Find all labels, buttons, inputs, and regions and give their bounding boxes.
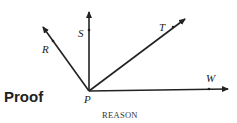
ray-label-r: R — [41, 43, 49, 55]
point-t — [172, 26, 175, 29]
ray-t: T — [89, 19, 185, 91]
point-r — [52, 40, 55, 43]
ray-label-s: S — [78, 27, 84, 39]
ray-label-w: W — [206, 72, 216, 84]
point-w — [208, 88, 211, 91]
point-s — [88, 29, 91, 32]
ray-label-t: T — [159, 21, 166, 33]
proof-heading: Proof — [4, 88, 43, 105]
reason-heading: REASON — [102, 110, 138, 120]
rays: RSTW — [41, 12, 228, 91]
vertex-label: P — [83, 93, 91, 105]
